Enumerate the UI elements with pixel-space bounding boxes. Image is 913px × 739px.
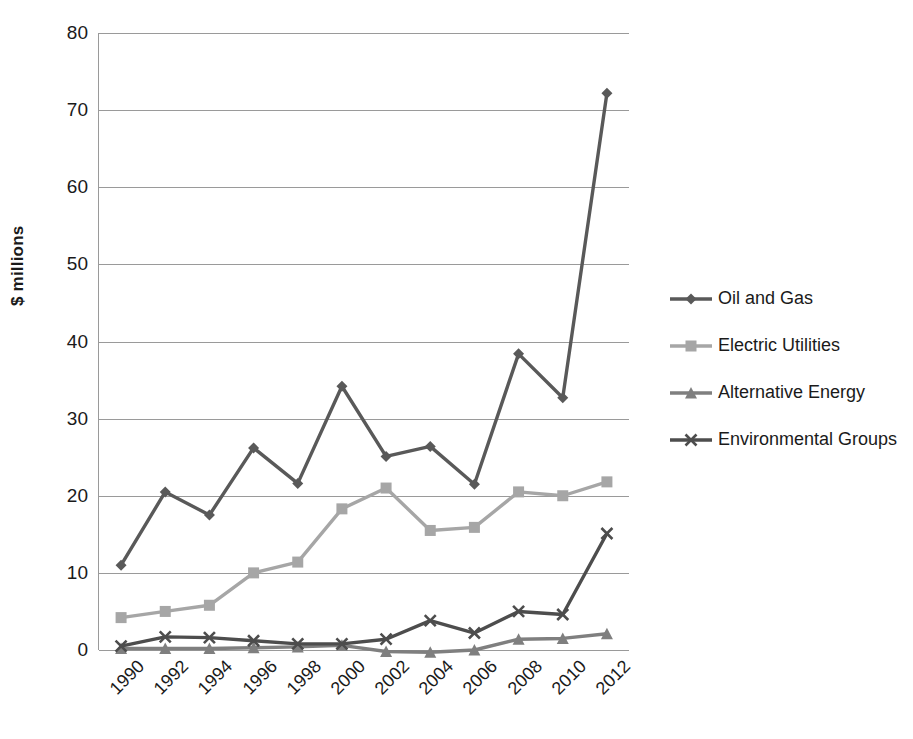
y-axis-tick-label: 10: [42, 562, 88, 584]
data-point-square-marker: [204, 600, 215, 611]
series-electric-utilities: [116, 476, 613, 623]
y-axis-tick-label: 50: [42, 253, 88, 275]
y-axis-tick-label: 60: [42, 176, 88, 198]
legend-item[interactable]: Environmental Groups: [668, 429, 908, 450]
data-point-square-marker: [557, 490, 568, 501]
y-axis-tick-label: 30: [42, 408, 88, 430]
data-point-square-marker: [686, 341, 697, 352]
legend: Oil and GasElectric UtilitiesAlternative…: [668, 288, 908, 476]
legend-diamond-icon: [668, 289, 714, 309]
data-point-square-marker: [469, 522, 480, 533]
legend-item[interactable]: Alternative Energy: [668, 382, 908, 403]
legend-label: Oil and Gas: [718, 288, 813, 309]
legend-triangle-icon: [668, 383, 714, 403]
data-point-diamond-marker: [686, 294, 697, 305]
legend-label: Electric Utilities: [718, 335, 840, 356]
y-axis-tick-label: 20: [42, 485, 88, 507]
data-point-square-marker: [248, 567, 259, 578]
data-point-square-marker: [425, 525, 436, 536]
legend-item[interactable]: Oil and Gas: [668, 288, 908, 309]
y-axis-title: $ millions: [8, 126, 34, 306]
x-axis-tick-labels: 1990199219941996199820002002200420062008…: [98, 650, 658, 739]
legend-item[interactable]: Electric Utilities: [668, 335, 908, 356]
plot-area: [98, 33, 629, 650]
data-point-square-marker: [381, 483, 392, 494]
series-line: [121, 534, 607, 647]
series-line: [121, 482, 607, 618]
data-point-diamond-marker: [601, 88, 612, 99]
y-axis-tick-label: 70: [42, 99, 88, 121]
data-point-square-marker: [160, 606, 171, 617]
series-environmental-groups: [116, 528, 613, 652]
chart-container: $ millions 01020304050607080 19901992199…: [0, 0, 913, 739]
data-point-square-marker: [601, 476, 612, 487]
legend-label: Environmental Groups: [718, 429, 897, 450]
y-axis-tick-labels: 01020304050607080: [44, 0, 96, 739]
legend-x-icon: [668, 430, 714, 450]
y-axis-tick-label: 80: [42, 22, 88, 44]
data-point-square-marker: [292, 557, 303, 568]
data-point-square-marker: [513, 486, 524, 497]
y-axis-tick-label: 40: [42, 331, 88, 353]
legend-label: Alternative Energy: [718, 382, 865, 403]
y-axis-tick-label: 0: [42, 639, 88, 661]
legend-square-icon: [668, 336, 714, 356]
data-point-square-marker: [116, 612, 127, 623]
data-point-x-marker: [601, 528, 612, 539]
series-layer: [99, 33, 629, 650]
data-point-square-marker: [336, 503, 347, 514]
